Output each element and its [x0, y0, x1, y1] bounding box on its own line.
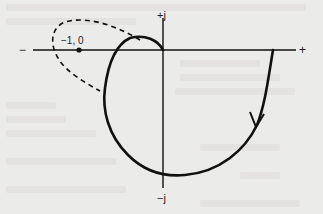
solid-locus-curve	[104, 37, 273, 176]
critical-point-marker	[76, 47, 81, 52]
real-negative-label: −	[19, 44, 26, 56]
dashed-locus-curve	[53, 20, 140, 91]
plot-canvas	[0, 0, 323, 214]
critical-point-label: −1, 0	[61, 36, 84, 46]
imag-positive-label: +j	[157, 10, 166, 21]
real-positive-label: +	[299, 44, 306, 56]
imag-negative-label: −j	[157, 193, 166, 204]
nyquist-diagram: − + +j −j −1, 0	[0, 0, 323, 214]
